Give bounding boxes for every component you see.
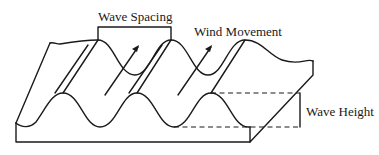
base-slab	[16, 61, 313, 142]
wave-spacing-bracket	[98, 27, 171, 40]
wave-height-label: Wave Height	[306, 105, 374, 118]
back-wave-profile	[50, 40, 313, 75]
wave-diagram	[0, 0, 379, 155]
ridge-lines	[16, 40, 245, 123]
front-wave-profile	[16, 93, 250, 127]
wind-movement-label: Wind Movement	[194, 25, 282, 38]
wind-arrow-2	[178, 45, 212, 95]
wave-spacing-label: Wave Spacing	[98, 10, 172, 23]
wind-arrow-1	[105, 45, 139, 95]
